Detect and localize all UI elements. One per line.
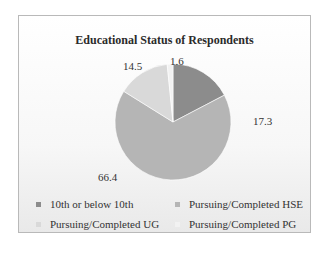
data-label-10th: 17.3: [253, 115, 272, 127]
legend-swatch-icon: [36, 202, 41, 207]
data-label-ug: 14.5: [123, 60, 142, 72]
legend-swatch-icon: [36, 222, 41, 227]
legend-item-ug: Pursuing/Completed UG: [36, 218, 159, 230]
legend-item-pg: Pursuing/Completed PG: [175, 218, 296, 230]
data-label-hse: 66.4: [98, 171, 117, 183]
data-label-pg: 1.6: [170, 55, 184, 67]
legend-item-hse: Pursuing/Completed HSE: [175, 198, 303, 210]
pie-chart: [0, 0, 329, 253]
legend-item-10th: 10th or below 10th: [36, 198, 133, 210]
legend-swatch-icon: [175, 202, 180, 207]
legend-swatch-icon: [175, 222, 180, 227]
